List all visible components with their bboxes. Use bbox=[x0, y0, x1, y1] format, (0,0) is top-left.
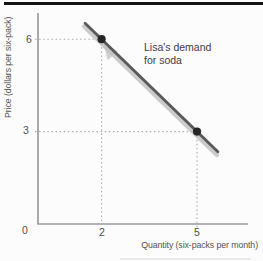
curve-label-line1: Lisa's demand bbox=[144, 41, 211, 54]
x-axis-title: Quantity (six-packs per month) bbox=[141, 240, 258, 250]
data-point-5-3 bbox=[193, 128, 201, 136]
x-tick-label-2: 2 bbox=[96, 227, 108, 238]
y-tick-label-6: 6 bbox=[23, 34, 35, 45]
data-point-2-6 bbox=[98, 35, 106, 43]
y-axis-title: Price (dollars per six-pack) bbox=[3, 17, 13, 118]
curve-label: Lisa's demand for soda bbox=[144, 41, 211, 67]
y-tick-label-3: 3 bbox=[20, 125, 32, 136]
chart-canvas bbox=[0, 0, 263, 261]
demand-curve-figure: 6 3 0 2 5 Price (dollars per six-pack) Q… bbox=[0, 0, 263, 261]
origin-tick-label: 0 bbox=[19, 225, 31, 236]
x-tick-label-5: 5 bbox=[191, 227, 203, 238]
figure-bottom-strip bbox=[120, 258, 251, 260]
curve-label-line2: for soda bbox=[144, 54, 211, 67]
